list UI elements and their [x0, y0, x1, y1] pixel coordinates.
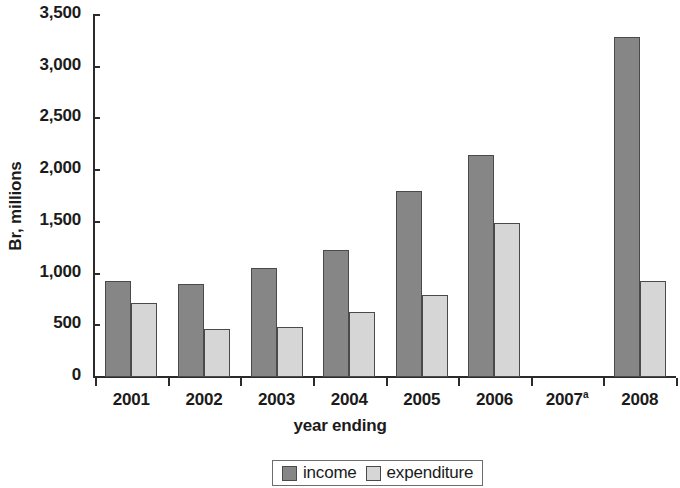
legend-label-income: income — [303, 463, 357, 483]
bar-expenditure-2003 — [277, 327, 303, 377]
x-axis-tick-mark — [313, 378, 315, 386]
bar-income-2001 — [105, 281, 131, 377]
bar-group — [614, 14, 666, 377]
x-axis-label-2004: 2004 — [311, 390, 387, 410]
bar-group — [105, 14, 157, 377]
x-axis-label-footnote-marker: a — [583, 389, 588, 400]
bar-chart: Br, millions 05001,0001,5002,0002,5003,0… — [0, 0, 680, 488]
bar-income-2002 — [178, 284, 204, 377]
x-axis-tick-mark — [676, 378, 678, 386]
x-axis-tick-mark — [168, 378, 170, 386]
x-axis-tick-mark — [95, 378, 97, 386]
y-axis-tick-label: 2,500 — [39, 106, 81, 126]
y-axis-title: Br, millions — [6, 146, 26, 266]
x-axis-label-2001: 2001 — [93, 390, 169, 410]
y-axis-tick-label: 1,000 — [39, 262, 81, 282]
x-axis-tick-mark — [531, 378, 533, 386]
y-axis-tick-label: 1,500 — [39, 210, 81, 230]
bar-group — [178, 14, 230, 377]
x-axis-label-2008: 2008 — [602, 390, 678, 410]
x-axis-label-2006: 2006 — [456, 390, 532, 410]
bar-group — [323, 14, 375, 377]
y-axis-tick-label: 3,000 — [39, 55, 81, 75]
bar-expenditure-2004 — [349, 312, 375, 377]
legend-swatch-income — [282, 466, 297, 481]
chart-legend: incomeexpenditure — [272, 460, 483, 486]
y-axis-tick-label: 2,000 — [39, 158, 81, 178]
bar-expenditure-2006 — [494, 223, 520, 377]
legend-label-expenditure: expenditure — [387, 463, 474, 483]
legend-entry-income[interactable]: income — [282, 463, 357, 483]
bar-group — [468, 14, 520, 377]
bar-expenditure-2002 — [204, 329, 230, 377]
x-axis-title: year ending — [0, 416, 680, 436]
x-axis-tick-mark — [603, 378, 605, 386]
plot-area — [95, 14, 676, 377]
bar-income-2006 — [468, 155, 494, 377]
x-axis-label-2003: 2003 — [239, 390, 315, 410]
x-axis-label-2005: 2005 — [384, 390, 460, 410]
bar-expenditure-2008 — [640, 281, 666, 377]
bar-group — [396, 14, 448, 377]
bar-income-2003 — [251, 268, 277, 377]
bar-income-2005 — [396, 191, 422, 377]
x-axis-tick-mark — [386, 378, 388, 386]
bar-group — [541, 14, 593, 377]
y-axis-tick-label: 3,500 — [39, 3, 81, 23]
bar-expenditure-2001 — [131, 303, 157, 377]
y-axis-tick-label: 0 — [72, 365, 81, 385]
x-axis-tick-mark — [458, 378, 460, 386]
x-axis-tick-mark — [240, 378, 242, 386]
legend-swatch-expenditure — [366, 466, 381, 481]
y-axis-tick-label: 500 — [53, 313, 81, 333]
bar-income-2008 — [614, 37, 640, 377]
x-axis-label-2007: 2007a — [529, 390, 605, 410]
bar-expenditure-2005 — [422, 295, 448, 377]
bar-group — [251, 14, 303, 377]
bar-income-2004 — [323, 250, 349, 377]
x-axis-label-2002: 2002 — [166, 390, 242, 410]
legend-entry-expenditure[interactable]: expenditure — [366, 463, 474, 483]
